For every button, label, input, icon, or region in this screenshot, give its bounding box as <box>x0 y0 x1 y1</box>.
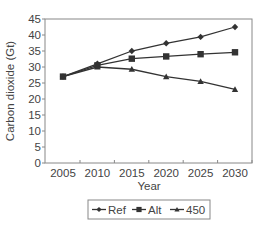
y-tick-label: 0 <box>35 157 41 169</box>
x-tick-label: 2010 <box>85 167 111 179</box>
y-tick-label: 35 <box>28 45 41 57</box>
series-ref <box>60 24 238 80</box>
y-tick-label: 45 <box>28 13 41 25</box>
y-tick-label: 20 <box>28 93 41 105</box>
legend-label: Ref <box>108 204 127 216</box>
y-tick-label: 5 <box>35 141 41 153</box>
x-tick-label: 2015 <box>119 167 145 179</box>
x-axis-title: Year <box>137 180 160 192</box>
x-tick-label: 2030 <box>222 167 248 179</box>
y-tick-label: 40 <box>28 29 41 41</box>
x-tick-label: 2025 <box>188 167 214 179</box>
legend-label: 450 <box>186 204 205 216</box>
legend: RefAlt450 <box>88 200 210 219</box>
plot-frame <box>45 19 252 163</box>
line-chart: 051015202530354045 200520102015202020252… <box>0 0 263 231</box>
x-tick-label: 2020 <box>153 167 179 179</box>
x-tick-label: 2005 <box>50 167 76 179</box>
series-alt <box>60 49 238 80</box>
y-axis: 051015202530354045 <box>28 13 45 169</box>
y-tick-label: 30 <box>28 61 41 73</box>
y-tick-label: 10 <box>28 125 41 137</box>
y-tick-label: 25 <box>28 77 41 89</box>
series-layer <box>60 24 238 92</box>
y-axis-title: Carbon dioxide (Gt) <box>4 41 16 142</box>
legend-label: Alt <box>148 204 162 216</box>
y-tick-label: 15 <box>28 109 41 121</box>
